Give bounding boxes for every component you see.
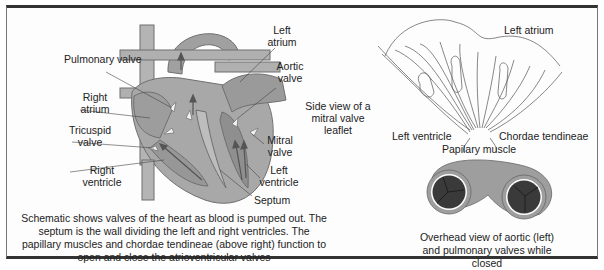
label-pulmonary-valve: Pulmonary valve [64, 53, 142, 65]
label-right-ventricle: Right ventricle [72, 164, 132, 188]
label-side-papillary-muscle: Papilary muscle [442, 143, 516, 155]
label-left-ventricle: Left ventricle [254, 164, 304, 188]
label-tricuspid-valve: Tricuspid valve [60, 124, 120, 148]
label-mitral-valve: Mitral valve [260, 134, 300, 158]
label-right-atrium: Right atrium [70, 91, 120, 115]
label-left-atrium: Left atrium [262, 24, 302, 48]
label-aortic-valve: Aortic valve [270, 60, 310, 84]
heart-caption: Schematic shows valves of the heart as b… [18, 212, 330, 264]
overhead-valves-illustration [427, 160, 552, 219]
label-side-left-atrium: Left atrium [504, 24, 554, 36]
overhead-caption: Overhead view of aortic (left) and pulmo… [412, 231, 562, 270]
label-septum: Septum [254, 194, 290, 206]
label-side-left-ventricle: Left ventricle [392, 130, 452, 142]
mitral-side-view-title: Side view of a mitral valve leaflet [298, 100, 378, 136]
label-side-chordae-tendineae: Chordae tendineae [499, 130, 588, 142]
